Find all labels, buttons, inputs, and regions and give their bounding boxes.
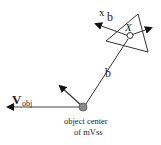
point-x-marker — [127, 33, 133, 39]
object-center-dot — [79, 103, 87, 111]
label-v-sub: obj — [22, 99, 32, 108]
diagram-canvas: V obj x b X b object center of mVss — [0, 0, 161, 145]
label-v: V — [12, 92, 22, 107]
label-center-line2: of mVss — [74, 127, 103, 137]
label-center-line1: object center — [64, 116, 108, 126]
label-point-x: X — [124, 21, 133, 33]
label-xb-x: x — [99, 6, 105, 18]
label-xb-b: b — [107, 10, 113, 24]
center-normal-arrow — [60, 86, 82, 106]
label-b: b — [105, 66, 111, 80]
xb-axis-right-arrow — [131, 28, 151, 35]
